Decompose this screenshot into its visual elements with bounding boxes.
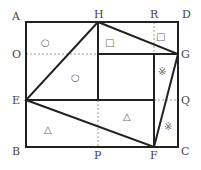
geometry-diagram: A H R D O G E Q B P F C ○ ○ □ □ ※ ※ △ △ (0, 0, 201, 170)
label-g: G (181, 48, 190, 61)
triangle-symbol-inner: △ (123, 111, 131, 122)
label-h: H (94, 8, 104, 21)
label-b: B (12, 145, 20, 158)
label-o: O (12, 48, 21, 61)
label-d: D (182, 8, 191, 21)
label-f: F (150, 149, 158, 162)
circle-symbol-top: ○ (41, 37, 50, 48)
label-e: E (12, 94, 20, 107)
asterisk-symbol-inner: ※ (158, 66, 166, 77)
label-c: C (181, 145, 189, 158)
label-p: P (94, 149, 102, 162)
label-a: A (11, 10, 21, 23)
label-q: Q (181, 94, 190, 107)
triangle-symbol-corner: △ (44, 124, 52, 135)
square-symbol-inner: □ (105, 37, 114, 48)
square-symbol-corner: □ (156, 31, 165, 42)
asterisk-symbol-corner: ※ (164, 121, 172, 132)
circle-symbol-inner: ○ (71, 72, 80, 83)
label-r: R (150, 8, 159, 21)
